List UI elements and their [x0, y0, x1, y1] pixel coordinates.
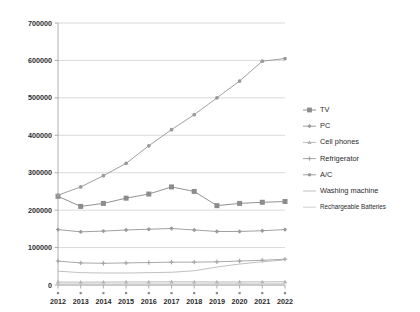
data-point-marker — [124, 228, 128, 232]
x-tick-label: 2018 — [186, 297, 202, 306]
data-point-marker — [101, 201, 106, 206]
legend-label: A/C — [320, 170, 333, 179]
legend-item-pc[interactable]: PC — [303, 121, 331, 130]
y-tick-label: 0 — [48, 281, 52, 290]
data-series-group — [56, 57, 288, 284]
y-tick-label: 700000 — [28, 19, 52, 28]
data-point-marker — [237, 229, 241, 233]
series-line — [58, 187, 285, 206]
y-tick-label: 300000 — [28, 168, 52, 177]
x-tick-label: 2016 — [141, 297, 157, 306]
data-point-marker — [170, 128, 174, 132]
data-point-marker — [79, 185, 83, 189]
y-tick-label: 500000 — [28, 93, 52, 102]
x-axis-marker — [57, 292, 59, 294]
data-point-marker — [56, 193, 60, 197]
x-axis-tick-labels: 2012201320142015201620172018201920202021… — [50, 297, 293, 306]
x-tick-label: 2020 — [232, 297, 248, 306]
data-point-marker — [283, 57, 287, 61]
gridlines — [55, 23, 286, 285]
x-tick-label: 2015 — [118, 297, 134, 306]
x-axis-tickmarks — [57, 285, 286, 294]
data-point-marker — [215, 229, 219, 233]
data-point-marker — [215, 96, 219, 100]
x-axis-marker — [170, 292, 172, 294]
legend-label: Refrigerator — [320, 154, 360, 163]
x-axis-marker — [102, 292, 104, 294]
x-axis-marker — [216, 292, 218, 294]
y-axis-tick-labels: 0100000200000300000400000500000600000700… — [28, 19, 52, 290]
data-point-marker — [147, 227, 151, 231]
data-point-marker — [124, 161, 128, 165]
data-point-marker — [307, 108, 312, 113]
data-point-marker — [56, 227, 60, 231]
legend-label: Washing machine — [320, 186, 378, 195]
x-axis-marker — [239, 292, 241, 294]
data-point-marker — [214, 203, 219, 208]
chart-legend: TVPCCell phonesRefrigeratorA/CWashing ma… — [303, 105, 386, 211]
data-point-marker — [283, 227, 287, 231]
x-axis-marker — [193, 292, 195, 294]
x-axis-marker — [125, 292, 127, 294]
x-tick-label: 2013 — [73, 297, 89, 306]
legend-label: TV — [320, 105, 330, 114]
data-point-marker — [260, 229, 264, 233]
line-chart: 0100000200000300000400000500000600000700… — [0, 0, 420, 312]
legend-item-a-c[interactable]: A/C — [303, 170, 333, 179]
series-pc — [56, 226, 287, 234]
data-point-marker — [192, 228, 196, 232]
data-point-marker — [147, 144, 151, 148]
data-point-marker — [79, 230, 83, 234]
data-point-marker — [237, 201, 242, 206]
x-axis-marker — [261, 292, 263, 294]
legend-item-refrigerator[interactable]: Refrigerator — [303, 154, 360, 163]
legend-label: Rechargeable Batteries — [320, 203, 386, 211]
data-point-marker — [307, 124, 311, 128]
data-point-marker — [238, 79, 242, 83]
data-point-marker — [78, 204, 83, 209]
x-tick-label: 2021 — [254, 297, 270, 306]
legend-label: PC — [320, 121, 331, 130]
data-point-marker — [283, 199, 288, 204]
data-point-marker — [102, 174, 106, 178]
x-axis-marker — [148, 292, 150, 294]
legend-item-tv[interactable]: TV — [303, 105, 330, 114]
axes — [58, 23, 285, 285]
chart-canvas: 0100000200000300000400000500000600000700… — [0, 0, 420, 312]
y-tick-label: 400000 — [28, 131, 52, 140]
x-tick-label: 2012 — [50, 297, 66, 306]
y-tick-label: 200000 — [28, 206, 52, 215]
x-tick-label: 2019 — [209, 297, 225, 306]
series-refrigerator — [56, 257, 287, 266]
data-point-marker — [146, 192, 151, 197]
legend-item-cell-phones[interactable]: Cell phones — [303, 137, 359, 146]
legend-item-washing-machine[interactable]: Washing machine — [303, 186, 378, 195]
x-axis-marker — [80, 292, 82, 294]
data-point-marker — [101, 229, 105, 233]
data-point-marker — [192, 113, 196, 117]
y-tick-label: 100000 — [28, 243, 52, 252]
x-tick-label: 2022 — [277, 297, 293, 306]
data-point-marker — [192, 189, 197, 194]
legend-item-rechargeable-batteries[interactable]: Rechargeable Batteries — [303, 203, 386, 211]
y-tick-label: 600000 — [28, 56, 52, 65]
x-tick-label: 2017 — [164, 297, 180, 306]
x-tick-label: 2014 — [95, 297, 111, 306]
series-a-c — [56, 57, 287, 197]
series-line — [58, 59, 285, 196]
data-point-marker — [124, 196, 129, 201]
data-point-marker — [169, 184, 174, 189]
data-point-marker — [260, 200, 265, 205]
data-point-marker — [169, 226, 173, 230]
data-point-marker — [308, 173, 312, 177]
legend-label: Cell phones — [320, 137, 359, 146]
x-axis-marker — [284, 292, 286, 294]
series-tv — [56, 184, 288, 208]
data-point-marker — [260, 59, 264, 63]
